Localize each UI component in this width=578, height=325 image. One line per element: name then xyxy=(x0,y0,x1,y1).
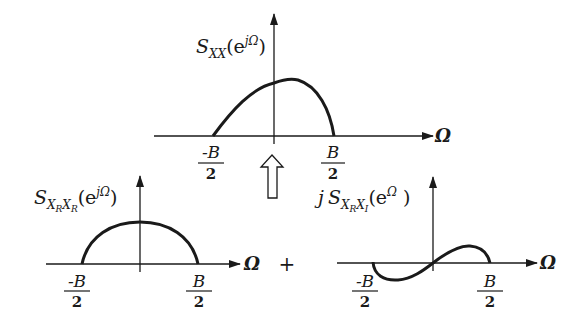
plus-sign: + xyxy=(279,252,296,276)
bl-right-tick: B 2 xyxy=(186,271,212,311)
diagram-canvas: SXX(ejΩ) Ω -B 2 B 2 SXRXR(ejΩ) Ω -B 2 B xyxy=(0,0,578,325)
svg-text:-B: -B xyxy=(356,271,374,291)
bl-x-label: Ω xyxy=(243,253,260,274)
svg-text:2: 2 xyxy=(206,165,216,183)
svg-text:B: B xyxy=(483,271,497,291)
br-x-label: Ω xyxy=(539,252,556,273)
svg-text:2: 2 xyxy=(360,293,370,311)
top-plot: SXX(ejΩ) Ω -B 2 B 2 xyxy=(154,14,451,183)
bottom-left-plot: SXRXR(ejΩ) Ω -B 2 B 2 xyxy=(34,176,260,311)
decomposition-arrow-icon xyxy=(261,155,283,198)
bottom-right-plot: jSXRXI(eΩ) Ω -B 2 B 2 xyxy=(314,177,556,311)
top-right-tick: B 2 xyxy=(321,142,345,183)
svg-text:2: 2 xyxy=(485,293,495,311)
br-right-tick: B 2 xyxy=(477,271,503,311)
svg-text:-B: -B xyxy=(68,271,86,291)
svg-text:-B: -B xyxy=(202,142,220,162)
top-ylabel: SXX(ejΩ) xyxy=(196,34,266,61)
top-left-tick: -B 2 xyxy=(198,142,224,183)
svg-text:B: B xyxy=(326,142,340,162)
svg-text:2: 2 xyxy=(328,165,338,183)
br-left-tick: -B 2 xyxy=(352,271,378,311)
svg-text:B: B xyxy=(192,271,206,291)
top-x-label: Ω xyxy=(434,125,451,146)
bl-left-tick: -B 2 xyxy=(64,271,90,311)
br-ylabel: jSXRXI(eΩ) xyxy=(314,185,410,214)
bl-ylabel: SXRXR(ejΩ) xyxy=(34,185,117,214)
svg-text:2: 2 xyxy=(72,293,82,311)
svg-text:2: 2 xyxy=(194,293,204,311)
